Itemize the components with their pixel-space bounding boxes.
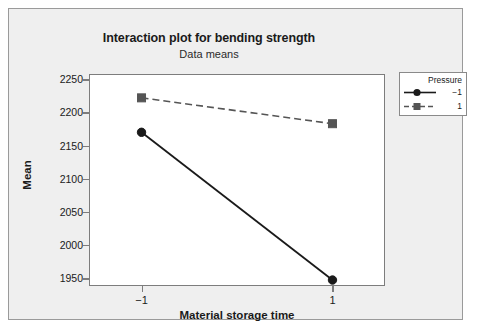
legend-row[interactable]: 1: [400, 100, 466, 113]
y-tick-label: 1950: [43, 272, 83, 284]
data-point-marker[interactable]: [328, 120, 336, 128]
x-axis-title: Material storage time: [89, 309, 385, 321]
interaction-plot-figure: Interaction plot for bending strength Da…: [0, 0, 480, 332]
chart-title: Interaction plot for bending strength: [9, 31, 409, 45]
y-tick-label: 2250: [43, 73, 83, 85]
series-group: [137, 94, 336, 284]
legend-row[interactable]: −1: [400, 86, 466, 99]
legend-title: Pressure: [428, 75, 462, 85]
y-tick-label: 2000: [43, 239, 83, 251]
legend-box[interactable]: Pressure −11: [399, 72, 467, 116]
series-line-1: [142, 132, 333, 280]
chart-subtitle: Data means: [9, 48, 409, 60]
y-tick-label: 2050: [43, 206, 83, 218]
x-tick-mark: [332, 286, 334, 292]
data-point-marker[interactable]: [328, 276, 336, 284]
x-tick-mark: [142, 286, 144, 292]
x-tick-label: 1: [312, 294, 352, 306]
square-marker: [403, 100, 437, 113]
y-tick-label: 2150: [43, 140, 83, 152]
x-tick-label: −1: [122, 294, 162, 306]
legend-label: 1: [457, 101, 462, 111]
legend-label: −1: [452, 87, 462, 97]
data-point-marker[interactable]: [137, 128, 145, 136]
figure-panel: Interaction plot for bending strength Da…: [8, 8, 463, 320]
circle-marker: [403, 86, 437, 99]
y-axis-tick-labels: 1950200020502100215022002250: [37, 74, 83, 286]
plot-canvas: [89, 74, 385, 286]
series-line-2: [142, 98, 333, 124]
y-tick-label: 2100: [43, 173, 83, 185]
y-axis-title: Mean: [21, 145, 33, 205]
data-point-marker[interactable]: [138, 94, 146, 102]
y-tick-label: 2200: [43, 106, 83, 118]
